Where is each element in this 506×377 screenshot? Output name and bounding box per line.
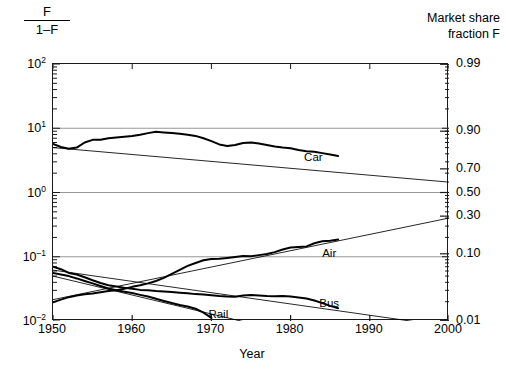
series-annotation-rail: Rail (208, 310, 228, 322)
series-annotation-car: Car (304, 152, 323, 164)
series-annotation-bus: Bus (319, 299, 339, 311)
series-annotations: CarAirBusRail (0, 0, 506, 377)
chart-figure: F 1–F Market share fraction F 10–210–110… (0, 0, 506, 377)
series-annotation-air: Air (322, 249, 336, 261)
x-axis-title: Year (0, 347, 506, 361)
x-axis-title-label: Year (239, 347, 264, 361)
